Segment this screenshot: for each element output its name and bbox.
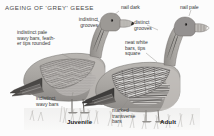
grey-geese-illustration [0, 0, 214, 136]
label-neat-white-bars: neat white bars, tips square [125, 40, 159, 57]
label-nail-pale: nail pale [180, 5, 210, 11]
caption-adult: Adult [160, 118, 176, 125]
illustration-plate: AGEING OF 'GREY' GEESE indistinct pale w… [0, 0, 214, 136]
label-indistinct-grooves: indistinct grooves [68, 17, 98, 28]
label-indistinct-pale-wavy-bars: indistinct pale wavy bars, feath- er tip… [17, 30, 73, 47]
caption-juvenile: Juvenile [67, 118, 92, 125]
label-indistinct-wavy-bars: indistinct wavy bars [36, 96, 70, 107]
label-nail-dark: nail dark [121, 5, 151, 11]
label-distinct-grooves: distinct grooves [134, 20, 164, 31]
label-marked-transverse-bars: marked transverse bars [112, 108, 146, 125]
page-title: AGEING OF 'GREY' GEESE [5, 4, 94, 11]
